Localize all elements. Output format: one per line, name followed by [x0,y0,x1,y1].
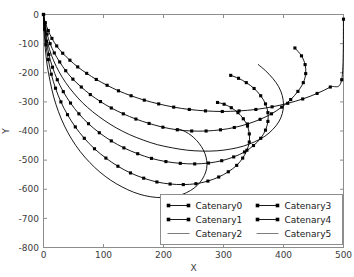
y-tick-label: -600 [19,184,40,194]
marker-point [150,157,153,160]
marker-point [182,183,185,186]
marker-point [241,157,244,160]
y-tick-label: 0 [33,10,39,20]
marker-point [45,40,48,43]
marker-point [157,102,160,105]
marker-point [161,126,164,129]
chart-legend[interactable]: Catenary0Catenary1Catenary2Catenary3Cate… [161,195,343,245]
marker-point [242,117,245,120]
marker-point [193,162,196,165]
marker-point [301,97,304,100]
marker-point [98,131,101,134]
marker-point [230,106,233,109]
marker-point [122,146,125,149]
legend-marker [167,204,171,208]
marker-point [66,113,69,116]
marker-point [43,28,46,31]
marker-point [42,13,45,16]
marker-point [220,159,223,162]
legend-marker [167,218,171,222]
marker-point [264,102,267,105]
marker-point [253,87,256,90]
legend-marker [276,218,280,222]
marker-point [207,161,210,164]
marker-point [296,90,299,93]
marker-point [62,90,65,93]
marker-point [54,87,57,90]
marker-point [190,129,193,132]
marker-point [216,101,219,104]
marker-point [95,78,98,81]
marker-point [229,74,232,77]
marker-point [232,155,235,158]
marker-point [205,129,208,132]
marker-point [47,53,50,56]
marker-point [270,112,273,115]
marker-point [74,125,77,128]
marker-point [64,69,67,72]
marker-point [47,29,50,32]
marker-point [176,128,179,131]
marker-point [122,112,125,115]
x-axis-title: X [190,263,196,273]
marker-point [80,85,83,88]
legend-marker [187,204,191,208]
legend-marker [187,218,191,222]
marker-point [148,122,151,125]
marker-point [69,101,72,104]
marker-point [266,111,269,114]
marker-point [280,106,283,109]
marker-point [304,63,307,66]
marker-point [302,81,305,84]
marker-point [43,23,46,26]
marker-point [252,144,255,147]
x-tick-label: 500 [335,250,352,260]
marker-point [87,122,90,125]
legend-marker [256,218,260,222]
marker-point [61,52,64,55]
marker-point [264,129,267,132]
y-tick-label: -700 [19,214,40,224]
marker-point [245,81,248,84]
marker-point [293,46,296,49]
marker-point [134,118,137,121]
marker-point [169,182,172,185]
legend-label: Catenary5 [285,229,332,239]
marker-point [83,137,86,140]
marker-point [233,126,236,129]
marker-point [248,132,251,135]
marker-point [289,98,292,101]
marker-point [71,78,74,81]
marker-point [53,51,56,54]
marker-point [194,182,197,185]
marker-point [179,162,182,165]
chart-figure: 01002003004005000-100-200-300-400-500-60… [0,0,354,277]
marker-point [304,72,307,75]
marker-point [254,108,257,111]
y-tick-label: -300 [19,97,40,107]
marker-point [271,105,274,108]
marker-point [99,100,102,103]
y-tick-label: -400 [19,126,40,136]
marker-point [142,177,145,180]
x-tick-label: 300 [215,250,232,260]
legend-label: Catenary3 [285,201,332,211]
marker-point [49,42,52,45]
marker-point [106,84,109,87]
y-tick-label: -100 [19,39,40,49]
marker-point [300,54,303,57]
marker-point [155,180,158,183]
marker-point [104,157,107,160]
marker-point [246,125,249,128]
marker-point [259,137,262,140]
marker-point [223,103,226,106]
marker-point [172,106,175,109]
marker-point [47,58,50,61]
marker-point [236,111,239,114]
marker-point [143,99,146,102]
marker-point [130,94,133,97]
marker-point [342,18,345,21]
y-tick-label: -200 [19,68,40,78]
marker-point [217,175,220,178]
y-tick-label: -500 [19,155,40,165]
